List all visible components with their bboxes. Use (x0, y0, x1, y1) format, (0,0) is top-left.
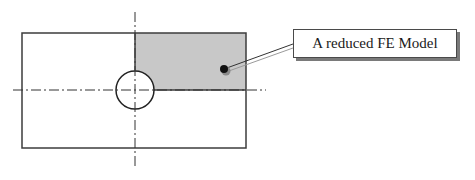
leader-dot (220, 65, 228, 73)
diagram-canvas: A reduced FE Model (0, 0, 475, 180)
fe-model-drawing (0, 0, 475, 180)
callout-label: A reduced FE Model (312, 35, 437, 52)
callout-label-box: A reduced FE Model (293, 29, 457, 58)
